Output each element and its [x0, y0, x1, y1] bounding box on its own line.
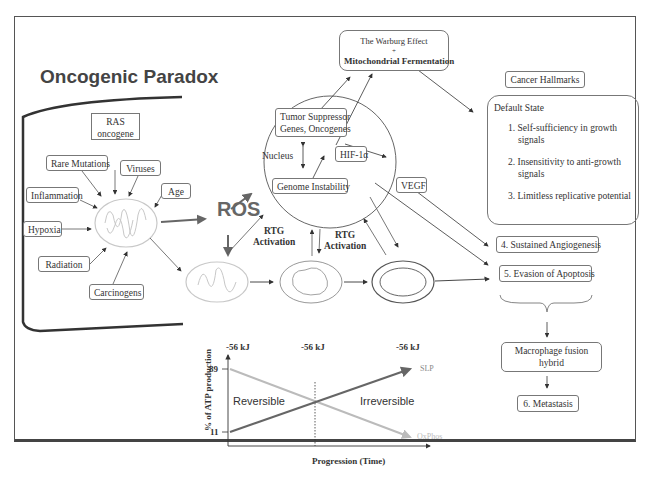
default-state-label: Default State	[494, 102, 632, 114]
oncogene-label: oncogene	[96, 128, 135, 140]
rtg-2: RTG	[324, 230, 366, 241]
hallmark-item-2: 2. Insensitivity to anti-growth signals	[504, 156, 632, 180]
legend-slp: SLP	[420, 364, 434, 373]
activation-1: Activation	[253, 237, 295, 248]
region-reversible: Reversible	[233, 395, 285, 407]
vegf-box: VEGF	[396, 177, 427, 193]
metastasis-box: 6. Metastasis	[517, 395, 579, 412]
region-irreversible: Irreversible	[360, 395, 414, 407]
activation-2: Activation	[324, 241, 366, 252]
kj-label-1: -56 kJ	[226, 342, 250, 352]
mitochondrion-icon	[95, 199, 157, 247]
ros-label: ROS	[217, 198, 260, 221]
ras-label: RAS	[96, 116, 135, 128]
ras-oncogene-box: RAS oncogene	[91, 113, 140, 140]
viruses-box: Viruses	[120, 160, 161, 176]
genome-instability-box: Genome Instability	[272, 178, 348, 194]
hallmark-item-1: 1. Self-sufficiency in growth signals	[504, 122, 632, 146]
warburg-line1: The Warburg Effect	[344, 36, 444, 46]
rare-mutations-box: Rare Mutations	[46, 155, 108, 171]
sustained-angiogenesis-box: 4. Sustained Angiogenesis	[496, 236, 599, 253]
evasion-apoptosis-box: 5. Evasion of Apoptosis	[499, 265, 592, 282]
warburg-plus: +	[344, 46, 444, 56]
macrophage-fusion-box: Macrophage fusion hybrid	[501, 342, 602, 372]
kj-label-3: -56 kJ	[396, 342, 420, 352]
kj-label-2: -56 kJ	[301, 342, 325, 352]
inflammation-box: Inflammation	[26, 187, 79, 203]
warburg-line2: Mitochondrial Fermentation	[344, 56, 444, 66]
carcinogens-box: Carcinogens	[89, 284, 144, 300]
tumor-suppressor-line2: Genes, Oncogenes	[280, 123, 342, 135]
rtg-1: RTG	[253, 226, 295, 237]
default-state-box: Default State 1. Self-sufficiency in gro…	[487, 95, 639, 225]
macrophage-line1: Macrophage fusion	[506, 345, 597, 357]
rtg-activation-label-1: RTG Activation	[253, 226, 295, 248]
nucleus-label: Nucleus	[262, 151, 293, 161]
y-axis-label: % of ATP production	[203, 349, 213, 431]
rtg-activation-label-2: RTG Activation	[324, 230, 366, 252]
macrophage-line2: hybrid	[506, 357, 597, 369]
cancer-hallmarks-title: Cancer Hallmarks	[505, 71, 585, 88]
age-box: Age	[161, 183, 191, 199]
legend-oxphos: OxPhos	[417, 432, 442, 441]
hypoxia-box: Hypoxia	[23, 221, 62, 237]
radiation-box: Radiation	[38, 256, 90, 272]
x-axis-label: Progression (Time)	[312, 456, 385, 466]
brace	[500, 295, 592, 312]
tumor-suppressor-line1: Tumor Suppressor	[280, 111, 342, 123]
hallmark-item-3: 3. Limitless replicative potential	[504, 190, 632, 202]
hif-box: HIF-1α	[335, 146, 367, 162]
warburg-box: The Warburg Effect + Mitochondrial Ferme…	[339, 30, 449, 71]
tumor-suppressor-box: Tumor Suppressor Genes, Oncogenes	[275, 108, 347, 137]
